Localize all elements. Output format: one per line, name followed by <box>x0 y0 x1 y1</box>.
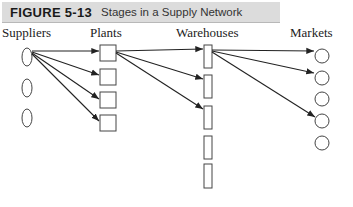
supplier-node <box>22 48 32 66</box>
arrow-edge <box>32 53 99 99</box>
warehouse-node <box>204 164 212 188</box>
warehouse-node <box>204 136 212 159</box>
warehouse-node <box>204 75 212 98</box>
arrow-edge <box>212 50 314 51</box>
warehouse-node <box>204 106 212 129</box>
suppliers-group <box>22 48 32 127</box>
markets-group <box>315 49 329 150</box>
arrow-edge <box>116 53 203 109</box>
arrow-edge <box>116 52 203 79</box>
supplier-node <box>22 79 32 97</box>
market-node <box>315 49 329 63</box>
supplier-node <box>22 109 32 127</box>
plant-node <box>100 45 116 61</box>
plant-node <box>100 115 116 131</box>
market-node <box>315 114 329 128</box>
plant-node <box>100 92 116 108</box>
plants-group <box>100 45 116 131</box>
market-node <box>315 92 329 106</box>
market-node <box>315 71 329 85</box>
arrow-edge <box>116 49 203 51</box>
supply-network-diagram <box>0 0 353 207</box>
plant-node <box>100 69 116 85</box>
warehouses-group <box>204 45 212 188</box>
edges-group <box>32 49 315 121</box>
warehouse-node <box>204 45 212 68</box>
market-node <box>315 136 329 150</box>
